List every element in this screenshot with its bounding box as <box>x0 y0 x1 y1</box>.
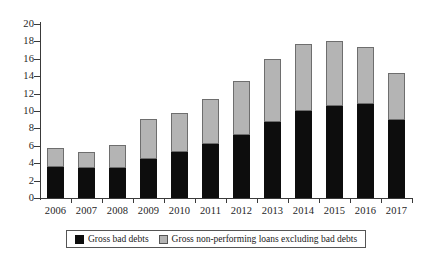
bar-segment-gross-bad-debts <box>264 122 281 198</box>
bar-segment-gross-bad-debts <box>202 144 219 198</box>
y-axis-tick <box>34 24 40 25</box>
y-axis-tick <box>34 128 40 129</box>
bar-segment-gross-npl-excluding-bad-debts <box>109 145 126 168</box>
x-axis-tick-label: 2009 <box>133 205 164 217</box>
x-axis-tick <box>412 198 413 203</box>
x-axis-tick-label: 2010 <box>164 205 195 217</box>
bar-segment-gross-npl-excluding-bad-debts <box>78 152 95 169</box>
y-axis-tick <box>34 198 40 199</box>
y-axis-tick-label: 16 <box>0 54 34 64</box>
bar-segment-gross-bad-debts <box>357 104 374 198</box>
bar-segment-gross-bad-debts <box>388 120 405 198</box>
bar-segment-gross-bad-debts <box>47 167 64 198</box>
x-axis-tick-label: 2012 <box>226 205 257 217</box>
bar-segment-gross-npl-excluding-bad-debts <box>357 47 374 104</box>
x-axis-tick <box>226 198 227 203</box>
bar-2009 <box>140 119 157 198</box>
bar-2017 <box>388 73 405 198</box>
bar-segment-gross-bad-debts <box>109 168 126 198</box>
y-axis-line <box>40 22 41 200</box>
gray-swatch-icon <box>159 235 168 244</box>
bar-segment-gross-npl-excluding-bad-debts <box>233 81 250 136</box>
bar-segment-gross-bad-debts <box>233 135 250 198</box>
y-axis-tick-label: 18 <box>0 36 34 46</box>
x-axis-tick <box>195 198 196 203</box>
bar-segment-gross-bad-debts <box>295 111 312 198</box>
bar-segment-gross-npl-excluding-bad-debts <box>295 44 312 111</box>
bar-2010 <box>171 113 188 198</box>
x-axis-tick-label: 2014 <box>288 205 319 217</box>
x-axis-tick <box>164 198 165 203</box>
bar-segment-gross-bad-debts <box>171 152 188 198</box>
x-axis-tick-label: 2017 <box>381 205 412 217</box>
bar-segment-gross-npl-excluding-bad-debts <box>388 73 405 120</box>
stacked-bar-chart: 02468101214161820 2006200720082009201020… <box>0 0 426 264</box>
y-axis-tick <box>34 181 40 182</box>
y-axis-tick <box>34 163 40 164</box>
bar-segment-gross-npl-excluding-bad-debts <box>140 119 157 159</box>
y-axis-tick-label: 0 <box>0 193 34 203</box>
bar-segment-gross-bad-debts <box>140 159 157 198</box>
y-axis-tick-label: 2 <box>0 176 34 186</box>
x-axis-tick <box>133 198 134 203</box>
bar-segment-gross-npl-excluding-bad-debts <box>202 99 219 144</box>
y-axis-tick-label: 8 <box>0 123 34 133</box>
x-axis-tick-label: 2016 <box>350 205 381 217</box>
x-axis-tick-label: 2011 <box>195 205 226 217</box>
legend-label: Gross bad debts <box>88 234 149 244</box>
bar-2013 <box>264 59 281 198</box>
legend-item-gross-bad-debts: Gross bad debts <box>75 234 149 244</box>
bar-2016 <box>357 47 374 198</box>
bar-2007 <box>78 152 95 198</box>
x-axis-tick <box>350 198 351 203</box>
x-axis-tick-label: 2007 <box>71 205 102 217</box>
y-axis-tick <box>34 146 40 147</box>
bar-2008 <box>109 145 126 198</box>
x-axis-tick <box>288 198 289 203</box>
x-axis-tick <box>102 198 103 203</box>
x-axis-tick <box>257 198 258 203</box>
y-axis-tick-label: 20 <box>0 19 34 29</box>
bar-2014 <box>295 44 312 198</box>
bar-segment-gross-npl-excluding-bad-debts <box>47 148 64 167</box>
bar-2015 <box>326 41 343 198</box>
y-axis-tick <box>34 41 40 42</box>
bar-2012 <box>233 81 250 198</box>
x-axis-tick-label: 2013 <box>257 205 288 217</box>
y-axis-tick-label: 6 <box>0 141 34 151</box>
y-axis-tick-label: 12 <box>0 89 34 99</box>
x-axis-tick <box>71 198 72 203</box>
chart-legend: Gross bad debts Gross non-performing loa… <box>66 230 366 248</box>
x-axis-tick <box>319 198 320 203</box>
y-axis-tick-label: 4 <box>0 158 34 168</box>
x-axis-tick-label: 2015 <box>319 205 350 217</box>
y-axis-tick <box>34 76 40 77</box>
bar-segment-gross-npl-excluding-bad-debts <box>264 59 281 123</box>
y-axis-tick-label: 10 <box>0 106 34 116</box>
legend-label: Gross non-performing loans excluding bad… <box>172 234 357 244</box>
bar-segment-gross-bad-debts <box>78 168 95 198</box>
y-axis-tick-label: 14 <box>0 71 34 81</box>
bar-segment-gross-bad-debts <box>326 106 343 198</box>
x-axis-tick-label: 2008 <box>102 205 133 217</box>
x-axis-tick <box>381 198 382 203</box>
y-axis-tick <box>34 94 40 95</box>
bar-2011 <box>202 99 219 198</box>
x-axis-tick-label: 2006 <box>40 205 71 217</box>
bar-segment-gross-npl-excluding-bad-debts <box>326 41 343 106</box>
bar-2006 <box>47 148 64 198</box>
y-axis-tick <box>34 111 40 112</box>
black-swatch-icon <box>75 235 84 244</box>
y-axis-tick <box>34 59 40 60</box>
bar-segment-gross-npl-excluding-bad-debts <box>171 113 188 152</box>
legend-item-gross-npl-excluding-bad-debts: Gross non-performing loans excluding bad… <box>159 234 357 244</box>
